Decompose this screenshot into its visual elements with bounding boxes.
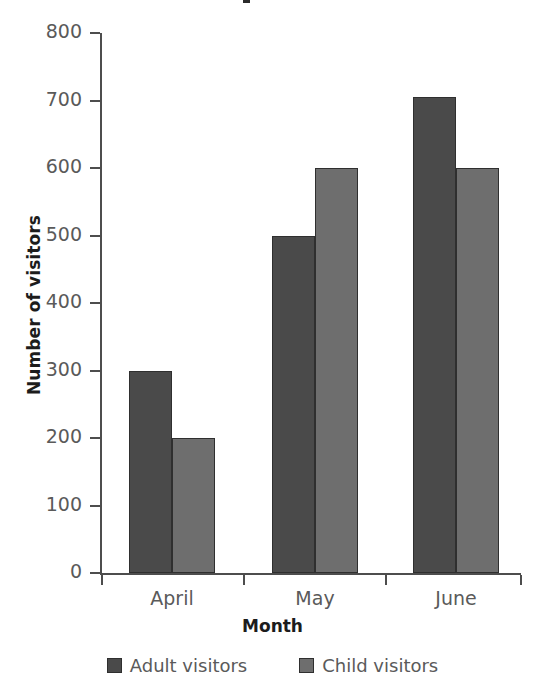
y-axis-tick-label: 300: [12, 358, 82, 380]
legend-label: Child visitors: [322, 655, 438, 676]
y-axis-tick-label: 800: [12, 20, 82, 42]
y-axis-line: [100, 33, 102, 574]
y-axis-tick-label: 0: [12, 560, 82, 582]
x-axis-category-label: May: [245, 587, 385, 609]
legend-item[interactable]: Adult visitors: [107, 655, 248, 676]
bar-chart: Number of visitors 800700600500400300200…: [0, 0, 545, 698]
x-axis-tick: [243, 575, 245, 585]
y-axis-tick: [90, 235, 100, 237]
x-axis-line: [100, 573, 521, 575]
legend-swatch-icon: [299, 658, 314, 673]
legend-label: Adult visitors: [130, 655, 248, 676]
x-axis-category-label: April: [102, 587, 242, 609]
y-axis-tick: [90, 370, 100, 372]
y-axis-tick-label: 700: [12, 88, 82, 110]
y-axis-tick-label: 500: [12, 223, 82, 245]
legend-swatch-icon: [107, 658, 122, 673]
y-axis-tick-label: 100: [12, 493, 82, 515]
x-axis-tick: [101, 575, 103, 585]
y-axis-tick: [90, 32, 100, 34]
bar-may-child: [315, 168, 358, 573]
y-axis-tick-label: 600: [12, 155, 82, 177]
y-axis-tick: [90, 437, 100, 439]
y-axis-tick-label: 200: [12, 425, 82, 447]
y-axis-tick-label: 400: [12, 290, 82, 312]
x-axis-tick: [385, 575, 387, 585]
y-axis-tick: [90, 572, 100, 574]
legend-item[interactable]: Child visitors: [299, 655, 438, 676]
y-axis-tick: [90, 167, 100, 169]
bar-april-child: [172, 438, 215, 573]
bar-june-child: [456, 168, 499, 573]
bar-may-adult: [272, 236, 315, 574]
bar-june-adult: [413, 97, 456, 573]
chart-legend: Adult visitorsChild visitors: [0, 655, 545, 676]
x-axis-tick: [520, 575, 522, 585]
y-axis-tick: [90, 100, 100, 102]
y-axis-tick: [90, 302, 100, 304]
y-axis-tick: [90, 505, 100, 507]
x-axis-category-label: June: [386, 587, 526, 609]
bar-april-adult: [129, 371, 172, 574]
x-axis-title: Month: [0, 616, 545, 636]
